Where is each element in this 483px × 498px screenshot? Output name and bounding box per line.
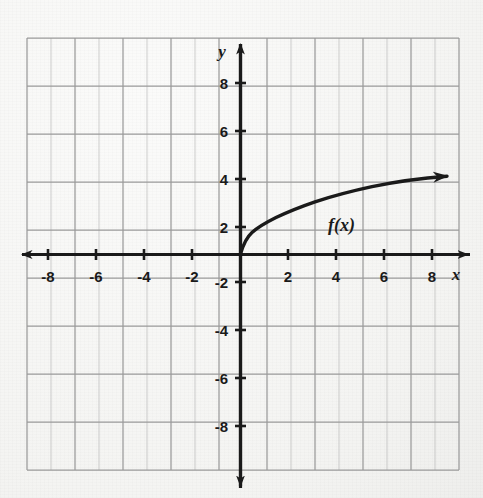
y-tick-label-neg4: -4 bbox=[215, 322, 229, 339]
y-tick-label-neg2: -2 bbox=[215, 274, 228, 291]
y-tick-label-2: 2 bbox=[220, 219, 228, 236]
x-tick-label-neg8: -8 bbox=[41, 268, 54, 285]
x-tick-label-neg6: -6 bbox=[89, 268, 102, 285]
figure-page: -8 -6 -4 -2 2 4 6 8 8 6 4 2 -2 -4 -6 -8 … bbox=[0, 0, 483, 498]
y-tick-label-6: 6 bbox=[220, 123, 228, 140]
x-tick-label-8: 8 bbox=[428, 268, 436, 285]
x-tick-label-6: 6 bbox=[380, 268, 388, 285]
x-axis-label: x bbox=[451, 265, 461, 284]
y-tick-label-8: 8 bbox=[220, 75, 228, 92]
y-axis-label: y bbox=[216, 42, 226, 61]
x-tick-label-neg2: -2 bbox=[185, 268, 198, 285]
y-tick-label-4: 4 bbox=[220, 171, 229, 188]
x-tick-label-4: 4 bbox=[332, 268, 341, 285]
function-curve-label: f(x) bbox=[328, 215, 355, 236]
x-tick-label-neg4: -4 bbox=[137, 268, 151, 285]
x-tick-label-2: 2 bbox=[284, 268, 292, 285]
coordinate-plane-graph: -8 -6 -4 -2 2 4 6 8 8 6 4 2 -2 -4 -6 -8 … bbox=[0, 0, 483, 498]
y-tick-label-neg8: -8 bbox=[215, 418, 228, 435]
y-tick-label-neg6: -6 bbox=[215, 370, 228, 387]
